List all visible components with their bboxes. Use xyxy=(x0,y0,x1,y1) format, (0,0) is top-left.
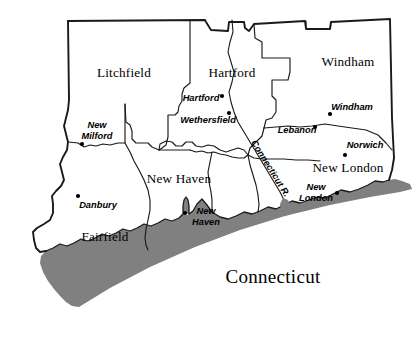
city-label-wethersfield: Wethersfield xyxy=(180,115,236,125)
city-label-new-milford-line1: New xyxy=(87,120,107,130)
city-dot-windham xyxy=(328,112,332,116)
county-label-new-haven: New Haven xyxy=(147,171,212,186)
county-label-windham: Windham xyxy=(322,54,375,69)
map-graphic: Litchfield Hartford Windham New Haven Ne… xyxy=(0,0,419,342)
city-label-hartford: Hartford xyxy=(183,93,220,103)
city-label-norwich: Norwich xyxy=(347,140,384,150)
city-label-new-london-line2: London xyxy=(299,193,333,203)
county-label-litchfield: Litchfield xyxy=(97,65,151,80)
connecticut-county-map: Litchfield Hartford Windham New Haven Ne… xyxy=(0,0,419,342)
city-dot-hartford xyxy=(220,94,224,98)
city-label-new-haven-city-line1: New xyxy=(196,206,216,216)
city-dot-new-london xyxy=(335,191,339,195)
city-dot-new-milford xyxy=(80,142,84,146)
county-boundary-windham-west xyxy=(306,21,331,29)
city-dot-new-haven xyxy=(183,211,187,215)
county-label-hartford: Hartford xyxy=(208,65,255,80)
city-label-new-haven-city-line2: Haven xyxy=(192,217,220,227)
city-label-new-milford-line2: Milford xyxy=(82,131,113,141)
city-label-lebanon: Lebanon xyxy=(278,125,317,135)
county-label-new-london: New London xyxy=(312,160,383,175)
city-dot-norwich xyxy=(343,153,347,157)
county-label-fairfield: Fairfield xyxy=(81,229,128,244)
city-dot-danbury xyxy=(76,194,80,198)
state-title: Connecticut xyxy=(225,266,321,287)
city-label-danbury: Danbury xyxy=(79,200,118,210)
city-label-windham: Windham xyxy=(331,102,373,112)
city-label-new-london-line1: New xyxy=(306,182,326,192)
